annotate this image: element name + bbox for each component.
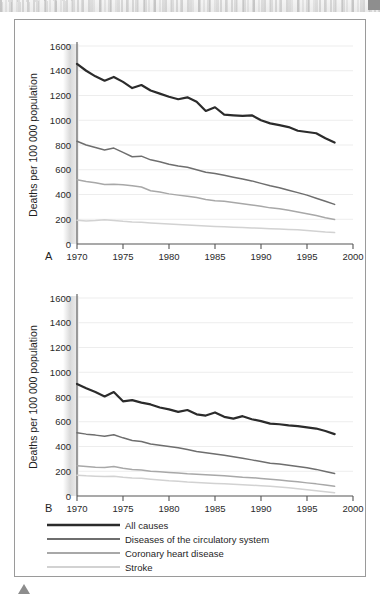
x-tick-label: 1975 <box>112 251 133 262</box>
y-tick-label: 200 <box>55 466 71 477</box>
legend-label-3: Stroke <box>125 562 152 573</box>
legend-label-1: Diseases of the circulatory system <box>125 534 269 545</box>
scan-edge-marker <box>368 0 380 10</box>
y-axis-label: Deaths per 100 000 population <box>27 73 39 217</box>
y-tick-label: 200 <box>55 214 71 225</box>
x-tick-label: 1980 <box>158 503 179 514</box>
x-tick-label: 1975 <box>112 503 133 514</box>
chart-legend: All causesDiseases of the circulatory sy… <box>47 520 269 573</box>
y-tick-label: 0 <box>66 491 71 502</box>
chart-panel-b: 0200400600800100012001400160019701975198… <box>15 278 367 578</box>
legend-label-0: All causes <box>125 520 169 531</box>
y-axis-tick-labels: 02004006008001000120014001600 <box>50 293 71 502</box>
y-tick-label: 1000 <box>50 367 71 378</box>
y-tick-label: 1000 <box>50 115 71 126</box>
panel-label: A <box>45 250 53 262</box>
x-tick-label: 1980 <box>158 251 179 262</box>
y-tick-label: 1200 <box>50 342 71 353</box>
x-tick-label: 1985 <box>204 503 225 514</box>
y-axis-label: Deaths per 100 000 population <box>27 325 39 469</box>
x-tick-label: 1995 <box>296 251 317 262</box>
x-tick-label: 1970 <box>66 503 87 514</box>
series-line-all-causes <box>77 384 335 434</box>
y-tick-label: 800 <box>55 392 71 403</box>
page-marker-triangle-icon <box>18 584 30 594</box>
gridlines <box>77 298 353 471</box>
y-tick-label: 0 <box>66 239 71 250</box>
y-tick-label: 1200 <box>50 90 71 101</box>
x-tick-label: 1990 <box>250 503 271 514</box>
x-axis-tick-labels: 1970197519801985199019952000 <box>66 244 363 262</box>
y-tick-label: 1400 <box>50 317 71 328</box>
legend-label-2: Coronary heart disease <box>125 548 224 559</box>
series-line-stroke <box>77 475 335 493</box>
chart-panel-a: 0200400600800100012001400160019701975198… <box>15 20 367 275</box>
y-axis-tick-labels: 02004006008001000120014001600 <box>50 41 71 250</box>
x-tick-label: 1995 <box>296 503 317 514</box>
x-tick-label: 2000 <box>342 251 363 262</box>
y-tick-label: 400 <box>55 189 71 200</box>
series-line-coronary-heart-disease <box>77 180 335 220</box>
y-tick-label: 800 <box>55 140 71 151</box>
scanned-page-texture-strip <box>0 0 380 12</box>
line-chart-b: 0200400600800100012001400160019701975198… <box>15 278 367 578</box>
line-chart-a: 0200400600800100012001400160019701975198… <box>15 20 367 275</box>
x-tick-label: 1970 <box>66 251 87 262</box>
figure-frame: 0200400600800100012001400160019701975198… <box>14 19 366 577</box>
x-tick-label: 2000 <box>342 503 363 514</box>
series-line-stroke <box>77 220 335 233</box>
y-tick-label: 600 <box>55 164 71 175</box>
y-tick-label: 600 <box>55 416 71 427</box>
panel-label: B <box>45 502 52 514</box>
y-tick-label: 1400 <box>50 65 71 76</box>
x-axis-tick-labels: 1970197519801985199019952000 <box>66 496 363 514</box>
x-tick-label: 1990 <box>250 251 271 262</box>
x-tick-label: 1985 <box>204 251 225 262</box>
y-tick-label: 1600 <box>50 41 71 52</box>
series-line-all-causes <box>77 64 335 143</box>
y-tick-label: 1600 <box>50 293 71 304</box>
y-tick-label: 400 <box>55 441 71 452</box>
